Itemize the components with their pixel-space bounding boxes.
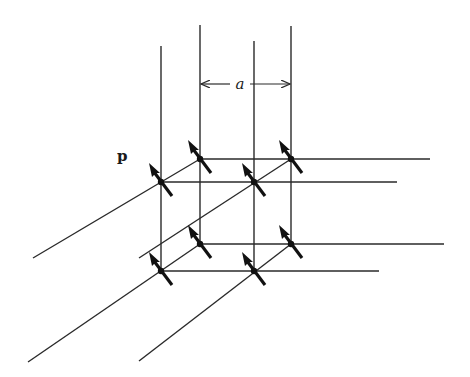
diagonal-lattice-lines [28,159,291,362]
diagonal-line [28,244,200,362]
horizontal-lattice-lines [161,159,444,271]
dipole-shaft [247,261,265,285]
dipole-lattice-diagram: p a [0,0,470,377]
dipole-shaft [247,172,265,196]
lattice-spacing-label: a [236,75,245,93]
dipole-moment-label: p [117,147,128,165]
diagram-canvas: p a [0,0,470,377]
diagonal-line [33,159,200,258]
dipole-shaft [284,234,302,258]
diagonal-line [139,159,291,258]
diagonal-line [139,244,291,361]
vertical-lattice-lines [161,25,291,271]
dipole-shaft [193,234,211,258]
